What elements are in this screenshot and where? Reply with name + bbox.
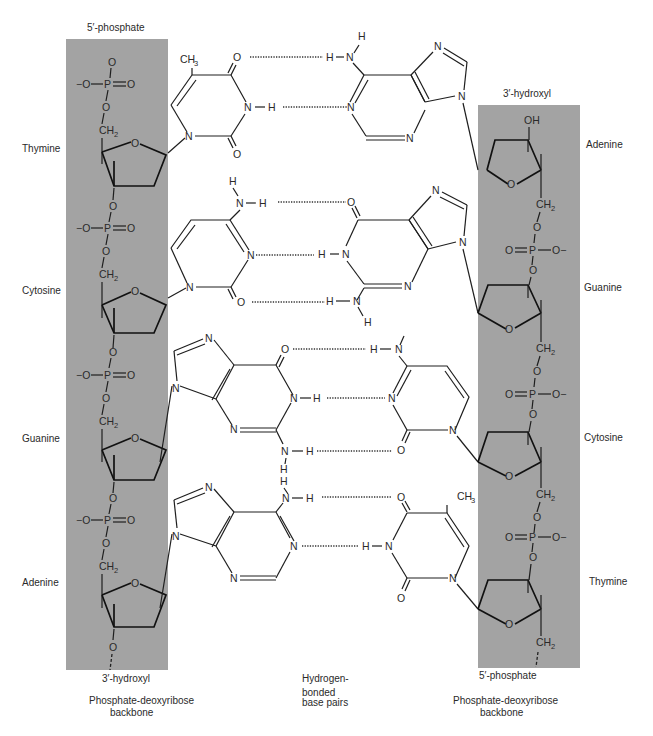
svg-text:CH: CH	[99, 268, 114, 280]
svg-text:O: O	[505, 388, 513, 400]
svg-text:H: H	[306, 492, 314, 504]
svg-text:P: P	[529, 244, 536, 256]
svg-text:O: O	[109, 492, 117, 504]
center-caption: Hydrogen- bonded base pairs	[302, 673, 349, 708]
base-pair-adenine-thymine: H N H N N N N O	[160, 475, 478, 609]
svg-text:2: 2	[114, 274, 118, 283]
svg-text:H: H	[358, 30, 366, 42]
svg-text:N: N	[281, 445, 289, 457]
thymine-ring-2: O CH 3 H N N O	[362, 490, 478, 609]
svg-text:O: O	[131, 432, 139, 444]
svg-text:CH: CH	[536, 636, 551, 648]
svg-text:2: 2	[551, 348, 555, 357]
cytosine-ring-1: H N H N N O	[168, 175, 267, 308]
svg-text:P: P	[104, 369, 111, 381]
svg-text:O: O	[109, 346, 117, 358]
svg-text:O: O	[529, 264, 537, 276]
svg-text:CH: CH	[99, 560, 114, 572]
svg-text:O−: O−	[552, 244, 566, 256]
adenine-ring-2: H N H N N N N	[160, 475, 314, 608]
svg-text:O: O	[131, 285, 139, 297]
svg-text:−O: −O	[76, 222, 90, 234]
svg-text:3: 3	[471, 496, 475, 505]
svg-text:CH: CH	[457, 490, 472, 502]
svg-text:P: P	[104, 78, 111, 90]
base-pair-thymine-adenine: CH 3 N N H O O H N	[168, 30, 478, 170]
svg-text:H: H	[364, 316, 372, 328]
svg-text:O: O	[505, 470, 513, 482]
right-base-label-4: Thymine	[589, 576, 628, 587]
svg-text:O: O	[102, 392, 110, 404]
svg-text:H: H	[280, 475, 288, 487]
svg-text:O: O	[237, 296, 245, 308]
svg-text:O: O	[533, 221, 541, 233]
svg-text:OH: OH	[524, 114, 540, 126]
svg-text:O: O	[127, 514, 135, 526]
right-base-label-2: Guanine	[584, 282, 622, 293]
right-top-end-label: 3′-hydroxyl	[503, 88, 551, 99]
svg-text:CH: CH	[99, 124, 114, 136]
svg-text:CH: CH	[536, 488, 551, 500]
base-pair-guanine-cytosine: N N N N H O N H H	[160, 332, 478, 475]
svg-text:N: N	[346, 51, 354, 63]
svg-text:2: 2	[551, 494, 555, 503]
svg-text:H: H	[280, 463, 288, 475]
svg-text:O: O	[102, 245, 110, 257]
svg-text:O: O	[533, 511, 541, 523]
left-bottom-end-label: 3′-hydroxyl	[102, 673, 150, 684]
svg-text:O: O	[505, 323, 513, 335]
svg-text:3: 3	[194, 59, 198, 68]
svg-text:CH: CH	[536, 342, 551, 354]
right-base-label-1: Adenine	[586, 139, 623, 150]
svg-text:−O: −O	[76, 369, 90, 381]
left-base-label-4: Adenine	[22, 577, 59, 588]
left-backbone-caption: Phosphate-deoxyribose backbone	[89, 695, 195, 718]
svg-text:Phosphate-deoxyribose: Phosphate-deoxyribose	[453, 695, 559, 706]
svg-text:N: N	[186, 281, 194, 293]
svg-text:H: H	[370, 343, 378, 355]
right-backbone-caption: Phosphate-deoxyribose backbone	[453, 695, 559, 718]
svg-text:N: N	[342, 248, 350, 260]
svg-text:O−: O−	[552, 531, 566, 543]
svg-text:N: N	[244, 101, 252, 113]
svg-text:H: H	[318, 248, 326, 260]
svg-text:CH: CH	[99, 415, 114, 427]
svg-text:N: N	[347, 101, 355, 113]
svg-text:O: O	[127, 369, 135, 381]
svg-text:O: O	[233, 148, 241, 160]
svg-text:N: N	[395, 343, 403, 355]
svg-text:H: H	[268, 101, 276, 113]
left-base-label-1: Thymine	[22, 143, 61, 154]
svg-text:N: N	[172, 530, 180, 542]
svg-text:P: P	[104, 514, 111, 526]
svg-text:N: N	[290, 392, 298, 404]
svg-text:O: O	[108, 56, 116, 68]
left-base-label-3: Guanine	[22, 433, 60, 444]
svg-text:2: 2	[114, 130, 118, 139]
svg-text:N: N	[459, 236, 467, 248]
svg-text:O: O	[505, 531, 513, 543]
svg-text:H: H	[326, 51, 334, 63]
guanine-ring-1: O N H N N N N H	[318, 184, 478, 328]
svg-text:N: N	[205, 332, 213, 344]
svg-text:O: O	[281, 343, 289, 355]
svg-text:O: O	[131, 577, 139, 589]
svg-text:2: 2	[551, 642, 555, 651]
svg-text:CH: CH	[536, 198, 551, 210]
svg-text:2: 2	[114, 421, 118, 430]
svg-text:O: O	[507, 178, 515, 190]
svg-text:base pairs: base pairs	[302, 697, 348, 708]
svg-text:N: N	[432, 184, 440, 196]
svg-text:N: N	[449, 572, 457, 584]
svg-text:O: O	[109, 200, 117, 212]
guanine-ring-2: N N N N H O N H H	[160, 332, 321, 475]
svg-text:N: N	[236, 197, 244, 209]
svg-text:P: P	[104, 222, 111, 234]
thymine-ring-1: CH 3 N N H O O	[168, 51, 276, 160]
svg-text:O: O	[127, 78, 135, 90]
svg-text:N: N	[353, 295, 361, 307]
adenine-ring-1: H N H N N N N	[326, 30, 478, 170]
svg-text:H: H	[229, 175, 237, 187]
left-top-end-label: 5′-phosphate	[87, 22, 145, 33]
svg-text:O: O	[533, 365, 541, 377]
